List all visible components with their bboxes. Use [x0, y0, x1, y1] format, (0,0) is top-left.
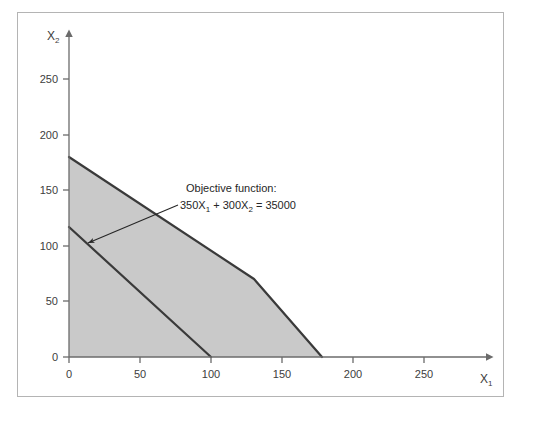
x-tick-label: 150 — [273, 368, 291, 380]
y-tick-label: 150 — [40, 184, 58, 196]
figure-container: 0 50 100 150 200 250 X2 0 50 100 150 200… — [0, 0, 536, 422]
y-tick-label: 0 — [52, 351, 58, 363]
y-tick-label: 250 — [40, 73, 58, 85]
x-tick-label: 0 — [66, 368, 72, 380]
linear-programming-chart: 0 50 100 150 200 250 X2 0 50 100 150 200… — [0, 0, 536, 422]
y-tick-label: 200 — [40, 129, 58, 141]
x-tick-label: 50 — [134, 368, 146, 380]
y-tick-label: 50 — [46, 295, 58, 307]
annotation-line-2: 350X1 + 300X2 = 35000 — [180, 199, 296, 214]
x-axis-title: X1 — [480, 372, 493, 388]
y-tick-label: 100 — [40, 240, 58, 252]
x-tick-label: 100 — [202, 368, 220, 380]
y-axis: 0 50 100 150 200 250 X2 — [40, 29, 69, 363]
annotation-line-1: Objective function: — [186, 182, 277, 194]
x-axis: 0 50 100 150 200 250 X1 — [66, 357, 493, 388]
x-tick-label: 250 — [415, 368, 433, 380]
y-axis-title: X2 — [47, 29, 60, 45]
x-tick-label: 200 — [344, 368, 362, 380]
